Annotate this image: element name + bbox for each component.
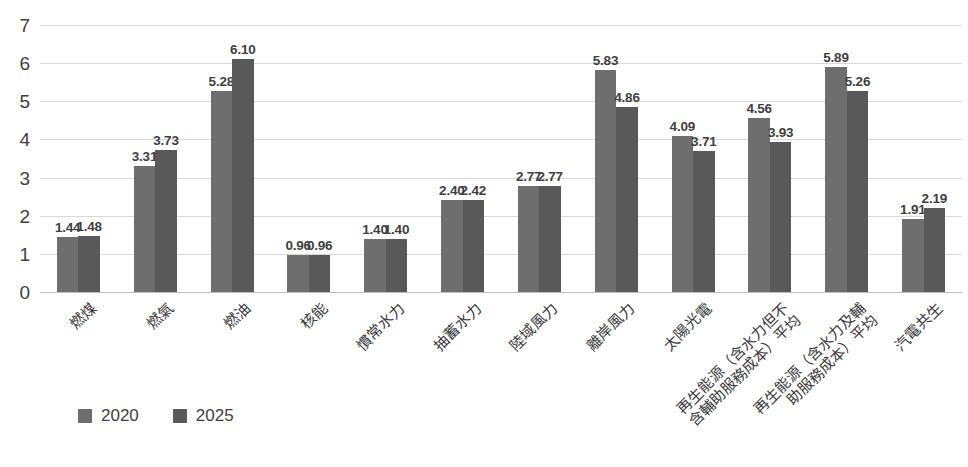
bar-2025-燃煤: 1.48: [78, 236, 100, 292]
bar-value-label: 4.09: [670, 119, 695, 134]
legend-item: 2025: [173, 406, 234, 426]
x-label-line: 太陽光電: [660, 299, 714, 353]
bar-value-label: 5.89: [823, 50, 848, 65]
x-label-line: 抽蓄水力: [429, 299, 483, 353]
bar-2025-核能: 0.96: [309, 255, 331, 292]
legend-label: 2020: [101, 406, 139, 426]
bar-group: 2.772.77: [518, 25, 561, 292]
bar-2020-燃氣: 3.31: [134, 166, 156, 292]
bar-value-label: 3.71: [691, 134, 716, 149]
bar-2020-核能: 0.96: [287, 255, 309, 292]
bar-2020-抽蓄水力: 2.40: [441, 200, 463, 292]
bar-2020-再生能源（含水力但不含輔助服務成本）平均: 4.56: [748, 118, 770, 292]
bar-value-label: 3.31: [132, 149, 157, 164]
x-label-line: 汽電共生: [890, 299, 944, 353]
bar-group: 3.313.73: [134, 25, 177, 292]
bar-group: 0.960.96: [287, 25, 330, 292]
bar-2020-離岸風力: 5.83: [595, 70, 617, 292]
y-tick-label: 5: [0, 92, 30, 111]
y-tick-label: 4: [0, 130, 30, 149]
bar-group: 1.441.48: [57, 25, 100, 292]
legend-item: 2020: [78, 406, 139, 426]
bar-2025-陸域風力: 2.77: [539, 186, 561, 292]
bar-2020-再生能源（含水力及輔助服務成本）平均: 5.89: [825, 67, 847, 292]
bar-value-label: 4.56: [746, 101, 771, 116]
bar-groups: 1.441.483.313.735.286.100.960.961.401.40…: [40, 25, 962, 292]
x-axis-label: 太陽光電: [661, 300, 715, 354]
legend-swatch-icon: [78, 409, 92, 423]
x-axis-label: 燃煤: [67, 300, 100, 333]
x-label-line: 離岸風力: [583, 299, 637, 353]
bar-2025-慣常水力: 1.40: [386, 239, 408, 292]
bar-2020-燃油: 5.28: [211, 91, 233, 292]
bar-value-label: 2.19: [922, 191, 947, 206]
y-tick-label: 3: [0, 168, 30, 187]
x-axis-label: 離岸風力: [584, 300, 638, 354]
bar-2025-燃氣: 3.73: [155, 150, 177, 292]
bar-chart: 01234567 1.441.483.313.735.286.100.960.9…: [0, 0, 968, 467]
x-label-line: 燃氣: [143, 299, 176, 332]
bar-value-label: 1.40: [384, 222, 409, 237]
bar-value-label: 3.93: [768, 125, 793, 140]
bar-2020-燃煤: 1.44: [57, 237, 79, 292]
bar-group: 5.895.26: [825, 25, 868, 292]
x-axis-label: 慣常水力: [353, 300, 407, 354]
bar-group: 1.401.40: [364, 25, 407, 292]
bar-value-label: 1.48: [76, 219, 101, 234]
bar-value-label: 3.73: [153, 133, 178, 148]
bar-2025-再生能源（含水力但不含輔助服務成本）平均: 3.93: [770, 142, 792, 292]
bar-value-label: 0.96: [307, 238, 332, 253]
y-tick-label: 6: [0, 54, 30, 73]
x-label-line: 慣常水力: [353, 299, 407, 353]
bar-value-label: 6.10: [230, 42, 255, 57]
x-axis-label: 陸域風力: [507, 300, 561, 354]
bar-value-label: 5.83: [593, 53, 618, 68]
bar-2020-陸域風力: 2.77: [518, 186, 540, 292]
bar-value-label: 5.26: [845, 74, 870, 89]
bar-group: 4.563.93: [748, 25, 791, 292]
bar-2020-汽電共生: 1.91: [902, 219, 924, 292]
bar-2020-太陽光電: 4.09: [672, 136, 694, 292]
x-label-line: 核能: [297, 299, 330, 332]
bar-value-label: 2.42: [461, 183, 486, 198]
bar-value-label: 5.28: [209, 74, 234, 89]
x-axis-label: 抽蓄水力: [430, 300, 484, 354]
bar-group: 5.286.10: [211, 25, 254, 292]
x-axis-label: 燃氣: [144, 300, 177, 333]
bar-value-label: 4.86: [614, 90, 639, 105]
bar-2025-再生能源（含水力及輔助服務成本）平均: 5.26: [847, 91, 869, 292]
bar-group: 2.402.42: [441, 25, 484, 292]
y-tick-label: 0: [0, 283, 30, 302]
x-axis-label: 汽電共生: [891, 300, 945, 354]
y-tick-label: 2: [0, 206, 30, 225]
bar-group: 4.093.71: [672, 25, 715, 292]
legend-label: 2025: [196, 406, 234, 426]
y-tick-label: 7: [0, 16, 30, 35]
bar-2020-慣常水力: 1.40: [364, 239, 386, 292]
bar-group: 5.834.86: [595, 25, 638, 292]
legend: 20202025: [78, 406, 234, 426]
bar-group: 1.912.19: [902, 25, 945, 292]
legend-swatch-icon: [173, 409, 187, 423]
bar-2025-汽電共生: 2.19: [924, 208, 946, 292]
x-axis-labels: 燃煤燃氣燃油核能慣常水力抽蓄水力陸域風力離岸風力太陽光電再生能源（含水力但不含輔…: [40, 292, 962, 402]
x-axis-label: 燃油: [221, 300, 254, 333]
bar-2025-太陽光電: 3.71: [693, 151, 715, 293]
x-label-line: 燃煤: [66, 299, 99, 332]
x-label-line: 燃油: [220, 299, 253, 332]
y-tick-label: 1: [0, 244, 30, 263]
bar-value-label: 2.77: [537, 169, 562, 184]
x-label-line: 陸域風力: [506, 299, 560, 353]
bar-2025-抽蓄水力: 2.42: [463, 200, 485, 292]
bar-2025-燃油: 6.10: [232, 59, 254, 292]
x-axis-label: 核能: [298, 300, 331, 333]
bar-2025-離岸風力: 4.86: [616, 107, 638, 292]
